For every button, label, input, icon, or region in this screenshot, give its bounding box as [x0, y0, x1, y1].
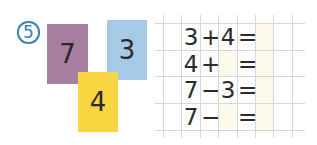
eq3-operand-a: 7	[182, 77, 200, 103]
eq3-operator: −	[201, 77, 219, 103]
eq4-answer-input[interactable]	[256, 104, 274, 130]
eq4-operand-a: 7	[182, 104, 200, 130]
eq3-operand-b: 3	[219, 77, 237, 103]
eq2-operator: +	[201, 51, 219, 77]
eq1-operator: +	[201, 24, 219, 50]
eq3-equals: =	[238, 77, 256, 103]
eq1-equals: =	[238, 24, 256, 50]
eq1-operand-b: 4	[219, 24, 237, 50]
eq2-equals: =	[238, 51, 256, 77]
eq1-answer-input[interactable]	[256, 24, 274, 50]
eq3-answer-input[interactable]	[256, 77, 274, 103]
eq2-operand-b-input[interactable]	[219, 51, 237, 77]
eq4-equals: =	[238, 104, 256, 130]
eq2-operand-a: 4	[182, 51, 200, 77]
eq4-operator: −	[201, 104, 219, 130]
eq2-answer-input[interactable]	[256, 51, 274, 77]
eq1-operand-a: 3	[182, 24, 200, 50]
eq4-operand-b-input[interactable]	[219, 104, 237, 130]
